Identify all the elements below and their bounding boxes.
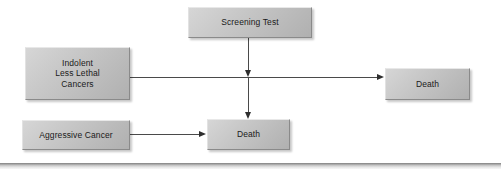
connector-indolent-to-death-right <box>130 77 378 78</box>
connector-aggressive-to-death-bottom <box>130 134 200 135</box>
node-indolent-less-lethal-cancers[interactable]: Indolent Less Lethal Cancers <box>25 47 130 100</box>
node-indolent-label-line2: Less Lethal <box>26 68 129 79</box>
connector-screening-to-death-bottom <box>248 78 249 112</box>
arrowhead-screening-to-indolent-path <box>245 70 251 77</box>
node-indolent-label-line3: Cancers <box>26 79 129 90</box>
connector-screening-to-indolent-path <box>248 38 249 71</box>
node-screening-test-label: Screening Test <box>189 17 311 28</box>
node-aggressive-cancer-label: Aggressive Cancer <box>23 130 129 141</box>
node-death-right-label: Death <box>386 79 469 90</box>
node-indolent-label-line1: Indolent <box>26 58 129 69</box>
diagram-canvas: Screening Test Indolent Less Lethal Canc… <box>0 0 501 173</box>
arrowhead-indolent-to-death-right <box>377 74 384 80</box>
node-aggressive-cancer[interactable]: Aggressive Cancer <box>22 120 130 150</box>
node-death-bottom-label: Death <box>208 129 289 140</box>
node-death-right[interactable]: Death <box>385 68 470 100</box>
arrowhead-aggressive-to-death-bottom <box>199 131 206 137</box>
bottom-divider <box>0 163 501 169</box>
node-death-bottom[interactable]: Death <box>207 119 290 150</box>
node-screening-test[interactable]: Screening Test <box>188 7 312 38</box>
arrowhead-screening-to-death-bottom <box>245 112 251 119</box>
